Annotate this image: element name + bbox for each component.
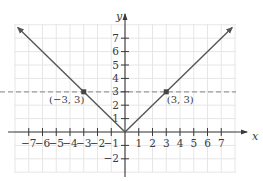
y-tick-label: 6 (112, 45, 119, 57)
y-axis-label: y (115, 10, 123, 23)
y-tick-label: 2 (112, 99, 119, 111)
x-tick-label: −1 (104, 137, 119, 149)
x-tick-label: 1 (135, 137, 142, 149)
y-tick-label: 3 (112, 85, 119, 97)
x-tick-label: 6 (204, 137, 211, 149)
right-branch (125, 27, 232, 132)
x-axis-label: x (252, 130, 259, 143)
x-tick-label: 7 (218, 137, 225, 149)
chart: −7−6−5−4−3−2−11234567−21234567 (−3, 3)(3… (0, 0, 263, 181)
y-tick-label: 7 (112, 32, 119, 44)
x-tick-label: 3 (163, 137, 170, 149)
left-branch (18, 27, 125, 132)
axis-labels: xy (115, 10, 259, 143)
x-tick-label: 4 (177, 137, 184, 149)
y-tick-label: 4 (112, 72, 119, 84)
x-tick-label: 5 (190, 137, 197, 149)
point-label: (3, 3) (167, 94, 194, 105)
x-tick-label: 2 (149, 137, 156, 149)
y-tick-label: 5 (112, 59, 119, 71)
y-tick-label: −2 (104, 152, 119, 164)
point-label: (−3, 3) (49, 94, 84, 105)
